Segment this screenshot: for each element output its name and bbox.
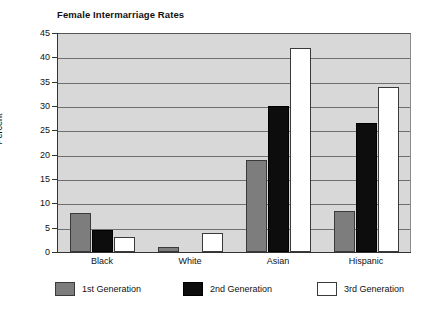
legend-item-gen3[interactable]: 3rd Generation [317, 279, 404, 299]
bar-black-gen3 [114, 237, 135, 252]
x-axis-label-asian: Asian [267, 256, 290, 266]
legend-label: 2nd Generation [210, 284, 272, 294]
bar-asian-gen3 [290, 48, 311, 252]
bar-hispanic-gen1 [334, 211, 355, 252]
bar-hispanic-gen3 [378, 87, 399, 252]
legend-item-gen2[interactable]: 2nd Generation [183, 279, 272, 299]
chart-legend: 1st Generation2nd Generation3rd Generati… [55, 279, 410, 303]
bars-group [58, 33, 410, 252]
bar-black-gen2 [92, 230, 113, 252]
x-axis-label-black: Black [91, 256, 113, 266]
x-axis-label-white: White [178, 256, 201, 266]
legend-swatch-gen3 [317, 282, 337, 296]
bar-hispanic-gen2 [356, 123, 377, 252]
y-axis-title: Percent [0, 113, 4, 144]
x-axis-label-hispanic: Hispanic [349, 256, 384, 266]
bar-asian-gen2 [268, 106, 289, 252]
bar-white-gen1 [158, 247, 179, 252]
chart-container: Female Intermarriage Rates 0510152025303… [0, 0, 421, 313]
legend-swatch-gen1 [55, 282, 75, 296]
legend-item-gen1[interactable]: 1st Generation [55, 279, 141, 299]
legend-label: 1st Generation [82, 284, 141, 294]
bar-white-gen3 [202, 233, 223, 252]
bar-black-gen1 [70, 213, 91, 252]
legend-label: 3rd Generation [344, 284, 404, 294]
legend-swatch-gen2 [183, 282, 203, 296]
bar-asian-gen1 [246, 160, 267, 252]
